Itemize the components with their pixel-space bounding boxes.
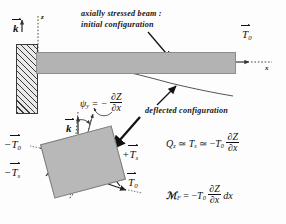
force-label-plus-Ts: +Ts	[122, 148, 138, 161]
shear-relation-1: ≃	[178, 138, 186, 149]
shear-lhs-subscript: z	[173, 142, 175, 149]
slope-fraction: ∂Z ∂x	[110, 92, 123, 113]
vector-k-glyph-upper: k	[13, 22, 19, 34]
annotation-leader-deflected	[157, 86, 176, 105]
axis-label-x: x	[265, 64, 269, 72]
force-label-T0-upper: T0	[242, 28, 252, 41]
psi-subscript: y	[86, 102, 89, 109]
force-label-T0-lower: T0	[128, 176, 138, 189]
fixed-support-wall	[16, 44, 38, 114]
slope-fraction-denominator: ∂x	[110, 103, 123, 113]
psi-angle-arc	[78, 120, 90, 124]
figure-canvas: axially stressed beam : initial configur…	[0, 0, 286, 224]
axis-label-z: z	[41, 13, 44, 21]
force-T0-glyph-lower: T	[128, 176, 134, 188]
minus-sign-T0: −	[4, 138, 11, 150]
force-T0-glyph-upper: T	[242, 28, 248, 40]
moment-relation: = −	[183, 190, 197, 201]
shear-relation-2: ≃ −	[199, 138, 215, 149]
moment-lhs: ℳ	[166, 190, 177, 201]
force-label-minus-Ts: −Ts	[4, 166, 20, 179]
shear-mid-subscript: s	[194, 142, 196, 149]
vector-k-glyph-lower: k	[66, 122, 72, 134]
annotation-initial-configuration: axially stressed beam : initial configur…	[81, 9, 162, 30]
vector-k-label-lower: k	[66, 122, 72, 134]
moment-coefficient-subscript: 0	[203, 194, 206, 201]
minus-sign-Ts: −	[4, 166, 11, 178]
vector-k-label-upper: k	[13, 22, 19, 34]
force-minus-T0-subscript: 0	[18, 144, 21, 151]
moment-lhs-subscript: F	[177, 194, 181, 201]
force-T0-subscript-upper: 0	[248, 34, 251, 41]
beam-body	[36, 52, 236, 74]
force-minus-Ts-glyph: T	[11, 166, 17, 178]
force-label-minus-T0: −T0	[4, 138, 21, 151]
shear-fraction-denominator: ∂x	[226, 143, 239, 153]
plus-sign-Ts: +	[122, 148, 129, 160]
shear-fraction: ∂Z ∂x	[226, 132, 239, 153]
equation-moment: ℳF = −T0 ∂Z ∂x dx	[166, 184, 233, 205]
force-minus-T0-glyph: T	[11, 138, 17, 150]
moment-differential: dx	[223, 190, 232, 201]
force-T0-subscript-lower: 0	[134, 182, 137, 189]
moment-fraction-denominator: ∂x	[208, 195, 221, 205]
annotation-line-2: initial configuration	[81, 20, 162, 31]
slope-equation: ψy = − ∂Z ∂x	[80, 92, 122, 113]
equation-shear: Qz ≃ Ts ≃ −T0 ∂Z ∂x	[166, 132, 239, 153]
moment-fraction: ∂Z ∂x	[208, 184, 221, 205]
slope-equals-minus: = −	[91, 98, 107, 109]
force-plus-Ts-glyph: T	[129, 148, 135, 160]
shear-coefficient-subscript: 0	[221, 142, 224, 149]
annotation-deflected-configuration: deflected configuration	[145, 106, 228, 117]
annotation-line-1: axially stressed beam :	[81, 9, 162, 20]
